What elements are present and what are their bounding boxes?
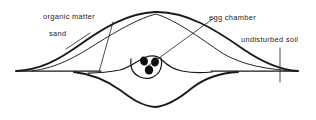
label-sand: sand [49,29,66,38]
pit-outline [74,72,238,107]
cross-section-diagram: organic matter sand egg chamber undistur… [0,0,316,120]
diagram-canvas: organic matter sand egg chamber undistur… [0,0,316,120]
label-undisturbed-soil: undisturbed soil [241,35,298,44]
egg-icon [145,65,153,74]
label-organic-matter: organic matter [43,12,95,21]
label-egg-chamber: egg chamber [209,13,256,22]
leader-line-organic-matter [99,22,113,72]
